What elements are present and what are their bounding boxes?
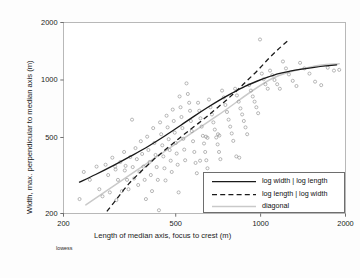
x-axis-title: Length of median axis, focus to crest (m… [94,231,231,240]
y-tick-label-500: 500 [30,133,58,142]
lowess-scatter-figure: Width, max. perpendicular to median axis… [0,0,360,278]
x-tick-label-1000: 1000 [244,219,278,228]
y-tick-label-1000: 1000 [30,75,58,84]
legend-entry-diagonal: diagonal [204,200,346,213]
legend-label-2: diagonal [262,201,289,210]
x-tick-label-2000: 2000 [329,219,360,228]
legend-entry-log-width-given-log-length: log width | log length [204,175,346,188]
x-tick-label-500: 500 [159,219,193,228]
x-tick-label-200: 200 [47,219,81,228]
legend-box: log width | log length log length | log … [203,172,345,213]
legend-key-solid-line [210,175,258,188]
y-tick-label-200: 200 [30,209,58,218]
y-tick-label-2000: 2000 [30,18,58,27]
legend-label-0: log width | log length [262,176,327,185]
y-axis-title: Width, max. perpendicular to median axis… [25,14,34,214]
legend-key-diagonal-line [210,200,258,213]
lowess-note: lowess [56,245,72,251]
legend-label-1: log length | log width [262,189,327,198]
